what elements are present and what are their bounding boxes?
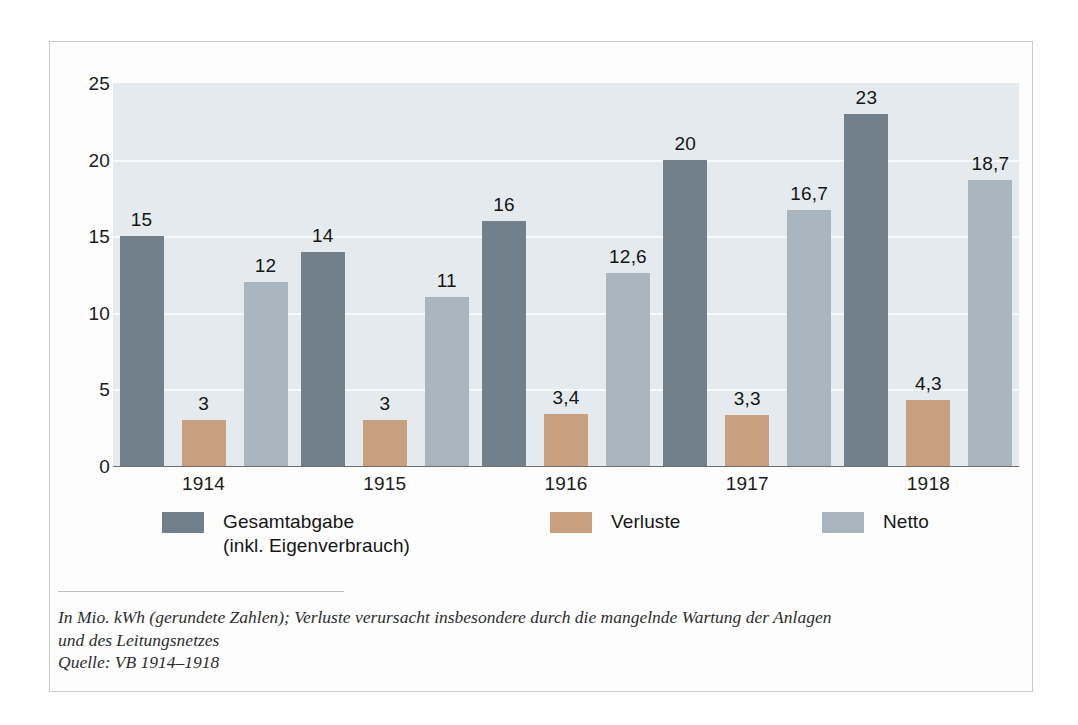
bar-value-label: 3 [159, 394, 249, 413]
bar-rect[interactable] [787, 210, 831, 466]
legend-item-2[interactable]: Verluste [550, 510, 680, 534]
y-tick-label: 10 [64, 303, 110, 322]
bar-value-label: 20 [640, 134, 730, 153]
x-tick-label-1918: 1918 [848, 474, 1008, 493]
legend-swatch-icon [822, 512, 864, 533]
footnote-line-2: und des Leitungsnetzes [58, 629, 963, 652]
bar-1916-series-1[interactable]: 16 [482, 83, 526, 466]
y-tick-label: 0 [64, 457, 110, 476]
plot-area: 1531214311163,412,6203,316,7234,318,7 [113, 83, 1019, 466]
x-tick-label-1916: 1916 [486, 474, 646, 493]
footnote: In Mio. kWh (gerundete Zahlen); Verluste… [58, 606, 963, 674]
bar-value-label: 18,7 [945, 154, 1035, 173]
bar-1918-series-2[interactable]: 4,3 [906, 83, 950, 466]
bar-1914-series-3[interactable]: 12 [244, 83, 288, 466]
legend-swatch-icon [162, 512, 204, 533]
bar-rect[interactable] [606, 273, 650, 466]
legend-swatch-icon [550, 512, 592, 533]
footnote-line-1: In Mio. kWh (gerundete Zahlen); Verluste… [58, 606, 963, 629]
x-tick-label-1914: 1914 [124, 474, 284, 493]
bar-group-1914: 15312 [113, 83, 294, 466]
bar-1914-series-2[interactable]: 3 [182, 83, 226, 466]
bar-rect[interactable] [301, 252, 345, 466]
chart-legend: Gesamtabgabe (inkl. Eigenverbrauch)Verlu… [110, 510, 1010, 570]
y-tick-label: 15 [64, 227, 110, 246]
bar-1918-series-3[interactable]: 18,7 [968, 83, 1012, 466]
bar-1915-series-2[interactable]: 3 [363, 83, 407, 466]
x-axis-line [113, 466, 1019, 467]
bar-value-label: 4,3 [883, 374, 973, 393]
bar-rect[interactable] [906, 400, 950, 466]
bar-rect[interactable] [425, 297, 469, 466]
figure-frame: 0510152025 1531214311163,412,6203,316,72… [49, 41, 1033, 692]
bar-1918-series-1[interactable]: 23 [844, 83, 888, 466]
bar-group-1915: 14311 [294, 83, 475, 466]
legend-item-3[interactable]: Netto [822, 510, 929, 534]
bar-rect[interactable] [182, 420, 226, 466]
y-tick-label: 5 [64, 380, 110, 399]
bar-chart: 0510152025 1531214311163,412,6203,316,72… [50, 42, 1034, 492]
bar-1917-series-3[interactable]: 16,7 [787, 83, 831, 466]
bar-1915-series-3[interactable]: 11 [425, 83, 469, 466]
bar-1917-series-2[interactable]: 3,3 [725, 83, 769, 466]
bar-group-1918: 234,318,7 [838, 83, 1019, 466]
legend-label: Netto [883, 510, 929, 534]
legend-item-1[interactable]: Gesamtabgabe (inkl. Eigenverbrauch) [162, 510, 410, 558]
bar-value-label: 3,4 [521, 388, 611, 407]
y-tick-label: 20 [64, 150, 110, 169]
bar-rect[interactable] [725, 415, 769, 466]
bar-value-label: 23 [821, 88, 911, 107]
bar-rect[interactable] [120, 236, 164, 466]
legend-label: Verluste [611, 510, 680, 534]
bar-rect[interactable] [482, 221, 526, 466]
bar-value-label: 16 [459, 195, 549, 214]
footnote-divider [58, 591, 344, 592]
bar-group-1916: 163,412,6 [475, 83, 656, 466]
bar-rect[interactable] [968, 180, 1012, 466]
bar-value-label: 15 [97, 210, 187, 229]
bar-group-1917: 203,316,7 [657, 83, 838, 466]
bar-1915-series-1[interactable]: 14 [301, 83, 345, 466]
x-tick-label-1917: 1917 [667, 474, 827, 493]
x-tick-label-1915: 1915 [305, 474, 465, 493]
footnote-line-3: Quelle: VB 1914–1918 [58, 651, 963, 674]
bar-value-label: 3,3 [702, 389, 792, 408]
bar-rect[interactable] [244, 282, 288, 466]
bar-rect[interactable] [544, 414, 588, 466]
bar-rect[interactable] [663, 160, 707, 466]
bar-1916-series-2[interactable]: 3,4 [544, 83, 588, 466]
bar-value-label: 14 [278, 226, 368, 245]
y-tick-label: 25 [64, 74, 110, 93]
bar-1917-series-1[interactable]: 20 [663, 83, 707, 466]
bar-1914-series-1[interactable]: 15 [120, 83, 164, 466]
legend-label: Gesamtabgabe (inkl. Eigenverbrauch) [223, 510, 410, 558]
x-axis: 19141915191619171918 [113, 474, 1019, 502]
bar-rect[interactable] [844, 114, 888, 466]
bar-rect[interactable] [363, 420, 407, 466]
y-axis: 0510152025 [54, 83, 110, 466]
bar-value-label: 3 [340, 394, 430, 413]
